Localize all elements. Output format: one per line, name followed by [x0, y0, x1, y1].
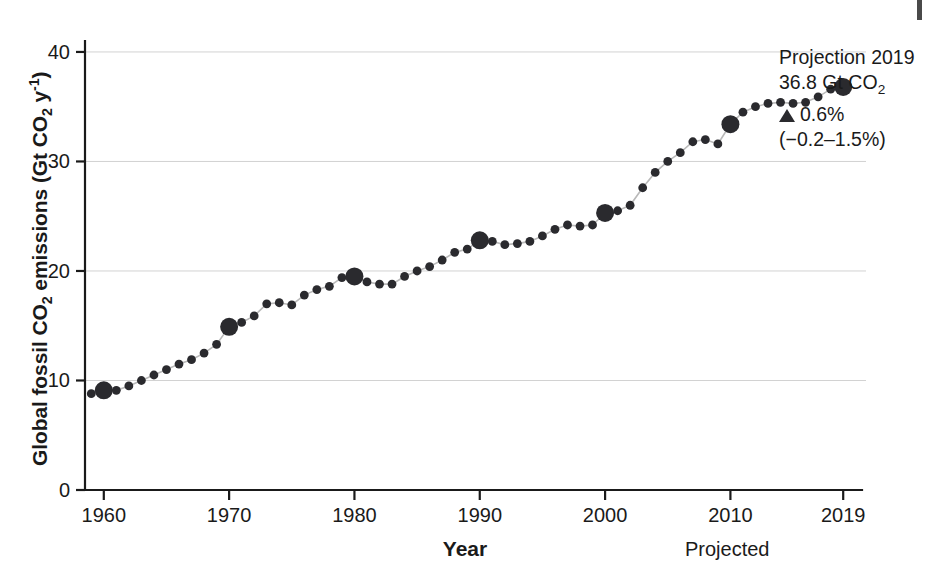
data-point-1997	[563, 221, 572, 230]
data-point-1989	[463, 245, 472, 254]
data-point-1998	[576, 222, 585, 231]
scan-edge-artifact	[917, 0, 922, 20]
y-axis-label: Global fossil CO2 emissions (Gt CO2 y-1)	[26, 71, 55, 466]
data-point-1974	[275, 298, 284, 307]
data-point-2012	[751, 102, 760, 111]
data-point-2005	[663, 157, 672, 166]
data-point-1986	[425, 262, 434, 271]
data-point-2013	[764, 99, 773, 108]
data-point-1972	[250, 311, 259, 320]
data-point-1985	[413, 267, 422, 276]
y-tick-label-0: 0	[59, 479, 70, 501]
data-point-1975	[287, 301, 296, 310]
annotation-value: 36.8 Gt CO	[779, 71, 878, 93]
x-tick-label-1960: 1960	[82, 504, 127, 526]
x-tick-label-1990: 1990	[458, 504, 503, 526]
data-point-2004	[651, 168, 660, 177]
data-point-1983	[388, 280, 397, 289]
data-point-1964	[150, 371, 159, 380]
data-point-1981	[363, 278, 372, 287]
data-point-1962	[124, 382, 133, 391]
data-point-1979	[338, 273, 347, 282]
data-point-1991	[488, 237, 497, 246]
data-point-1966	[175, 360, 184, 369]
x-tick-label-2019: 2019	[821, 504, 866, 526]
data-point-2009	[713, 140, 722, 149]
projection-annotation: Projection 2019 36.8 Gt CO2 0.6% (−0.2–1…	[779, 45, 915, 152]
data-point-1999	[588, 221, 597, 230]
data-point-1988	[450, 248, 459, 257]
data-point-2008	[701, 135, 710, 144]
data-point-1992	[500, 240, 509, 249]
triangle-up-icon	[779, 109, 795, 122]
data-point-1959	[87, 389, 96, 398]
data-point-2002	[626, 201, 635, 210]
data-point-major-1990	[471, 231, 489, 249]
data-point-1967	[187, 355, 196, 364]
data-point-1978	[325, 282, 334, 291]
data-point-1993	[513, 239, 522, 248]
data-point-1971	[237, 318, 246, 327]
data-point-1963	[137, 376, 146, 385]
data-point-1982	[375, 280, 384, 289]
axis-lines	[85, 41, 862, 490]
annotation-line-1: Projection 2019	[779, 45, 915, 70]
data-point-major-1980	[345, 267, 363, 285]
data-point-major-1960	[95, 381, 113, 399]
data-point-1973	[262, 299, 271, 308]
projected-note: Projected	[685, 538, 770, 561]
data-point-2006	[676, 148, 685, 157]
data-point-major-1970	[220, 318, 238, 336]
figure-container: 010203040 1960197019801990200020102019 G…	[0, 0, 930, 584]
annotation-subscript: 2	[878, 82, 886, 97]
x-axis-ticks: 1960197019801990200020102019	[82, 490, 866, 526]
series-data-points	[87, 78, 852, 399]
data-point-1984	[400, 272, 409, 281]
data-point-1968	[200, 349, 209, 358]
gridlines	[85, 52, 866, 381]
annotation-line-2: 36.8 Gt CO2	[779, 70, 915, 102]
data-point-1976	[300, 291, 309, 300]
x-tick-label-2000: 2000	[583, 504, 628, 526]
data-point-1996	[551, 225, 560, 234]
data-point-1969	[212, 340, 221, 349]
y-tick-label-40: 40	[48, 41, 70, 63]
x-tick-label-1980: 1980	[332, 504, 377, 526]
annotation-change: 0.6%	[800, 103, 844, 125]
annotation-line-4: (−0.2–1.5%)	[779, 127, 915, 152]
data-point-2011	[739, 108, 748, 117]
data-point-2007	[688, 137, 697, 146]
x-tick-label-2010: 2010	[708, 504, 753, 526]
data-point-1995	[538, 232, 547, 241]
annotation-line-3: 0.6%	[779, 102, 915, 127]
data-point-1987	[438, 256, 447, 265]
data-point-1965	[162, 365, 171, 374]
data-point-major-2000	[596, 204, 614, 222]
data-point-2001	[613, 206, 622, 215]
data-point-2003	[638, 183, 647, 192]
data-point-1977	[312, 285, 321, 294]
data-point-1961	[112, 386, 121, 395]
x-axis-label: Year	[405, 537, 525, 561]
data-point-1994	[526, 237, 535, 246]
x-tick-label-1970: 1970	[207, 504, 252, 526]
data-point-major-2010	[721, 115, 739, 133]
